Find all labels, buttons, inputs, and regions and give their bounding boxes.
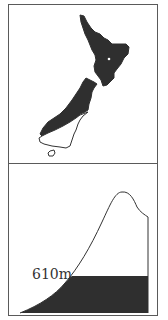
north-island [80, 15, 129, 86]
panel-divider [8, 163, 158, 164]
new-zealand-map [0, 0, 168, 163]
stewart-island [48, 150, 55, 156]
elevation-label: 610m [32, 267, 72, 281]
